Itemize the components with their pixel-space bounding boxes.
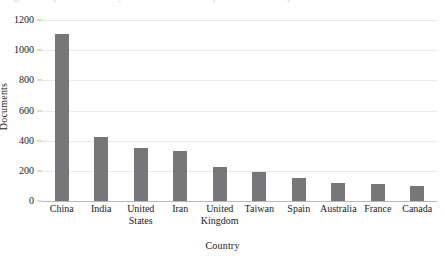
bar[interactable] (173, 151, 187, 201)
x-tick-label-line: France (364, 203, 391, 215)
x-tick-label: France (364, 203, 391, 215)
x-tick-label: Iran (172, 203, 188, 215)
x-tick-label: Australia (320, 203, 357, 215)
gridline (42, 80, 437, 81)
axis-baseline (42, 201, 437, 202)
y-axis: 020040060080010001200 (0, 0, 42, 264)
x-tick-label: Taiwan (245, 203, 274, 215)
x-tick-label-line: States (127, 215, 154, 227)
bar[interactable] (292, 178, 306, 201)
x-tick-label-line: China (50, 203, 74, 215)
bar[interactable] (252, 172, 266, 201)
x-tick-label: UnitedKingdom (201, 203, 239, 226)
bar[interactable] (94, 137, 108, 201)
bar[interactable] (134, 148, 148, 201)
y-tick-label: 0 (29, 196, 34, 206)
y-tick-label: 600 (19, 106, 34, 116)
x-tick-label: Spain (287, 203, 310, 215)
y-tick-label: 1200 (14, 15, 34, 25)
x-tick-label-line: Spain (287, 203, 310, 215)
x-tick-label-line: Iran (172, 203, 188, 215)
x-axis: ChinaIndiaUnitedStatesIranUnitedKingdomT… (42, 203, 437, 235)
x-tick-label: Canada (402, 203, 432, 215)
x-tick-label: China (50, 203, 74, 215)
y-tick-label: 400 (19, 136, 34, 146)
bar[interactable] (371, 184, 385, 201)
x-tick-label: India (91, 203, 112, 215)
plot-area (42, 20, 437, 201)
x-tick-label-line: Taiwan (245, 203, 274, 215)
gridline (42, 111, 437, 112)
bar[interactable] (55, 34, 69, 201)
x-tick-label-line: Australia (320, 203, 357, 215)
bar[interactable] (410, 186, 424, 201)
x-tick-label-line: Kingdom (201, 215, 239, 227)
x-tick-label-line: Canada (402, 203, 432, 215)
bar[interactable] (213, 167, 227, 201)
bar[interactable] (331, 183, 345, 201)
x-axis-title: Country (0, 240, 445, 251)
x-tick-label-line: United (127, 203, 154, 215)
y-tick-label: 800 (19, 75, 34, 85)
y-tick-label: 1000 (14, 45, 34, 55)
x-tick-label-line: United (201, 203, 239, 215)
gridline (42, 50, 437, 51)
x-tick-label: UnitedStates (127, 203, 154, 226)
y-tick-label: 200 (19, 166, 34, 176)
x-tick-label-line: India (91, 203, 112, 215)
bar-chart-figure: Documents 020040060080010001200 ChinaInd… (0, 0, 445, 264)
gridline (42, 20, 437, 21)
